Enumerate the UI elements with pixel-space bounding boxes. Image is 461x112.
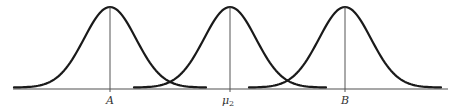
label-mu2: μ2: [222, 94, 234, 108]
label-b: B: [340, 94, 349, 107]
label-mu2-main: μ: [222, 94, 229, 107]
normal-curves-diagram: A μ2 B: [0, 0, 461, 112]
label-mu2-subscript: 2: [229, 99, 234, 108]
label-a: A: [105, 94, 114, 107]
